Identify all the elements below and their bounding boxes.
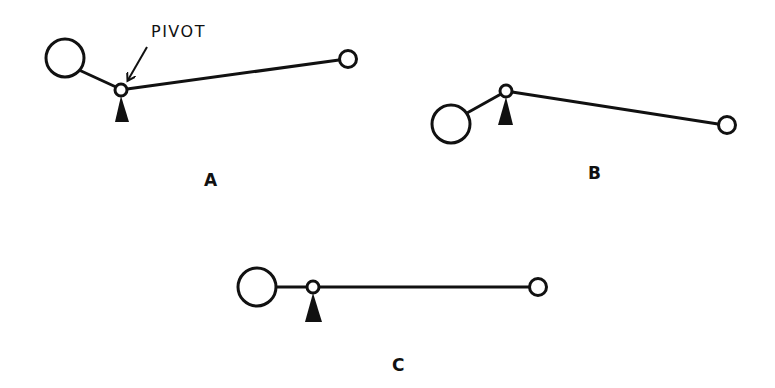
- lever-long-arm: [127, 60, 339, 89]
- heavy-weight: [238, 268, 276, 306]
- pivot-point: [307, 281, 319, 293]
- pivot-point: [115, 84, 127, 96]
- heavy-weight: [46, 39, 84, 77]
- panel-a: PIVOT A: [46, 22, 357, 190]
- heavy-weight: [432, 105, 470, 143]
- panel-b: B: [432, 85, 736, 183]
- lever-short-arm: [467, 94, 501, 113]
- panel-c: C: [238, 268, 547, 375]
- panel-label-b: B: [588, 163, 601, 183]
- panel-label-c: C: [392, 355, 404, 375]
- pivot-point: [500, 85, 512, 97]
- lever-diagram: PIVOT A B C: [0, 0, 775, 388]
- lever-short-arm: [79, 70, 116, 87]
- panel-label-a: A: [204, 170, 218, 190]
- light-weight: [340, 51, 357, 68]
- light-weight: [719, 117, 736, 134]
- fulcrum-icon: [498, 97, 513, 125]
- fulcrum-icon: [305, 293, 322, 322]
- lever-long-arm: [512, 92, 718, 124]
- pivot-arrow-icon: [128, 47, 147, 80]
- pivot-callout: PIVOT: [151, 22, 206, 41]
- light-weight: [530, 279, 547, 296]
- fulcrum-icon: [115, 96, 129, 122]
